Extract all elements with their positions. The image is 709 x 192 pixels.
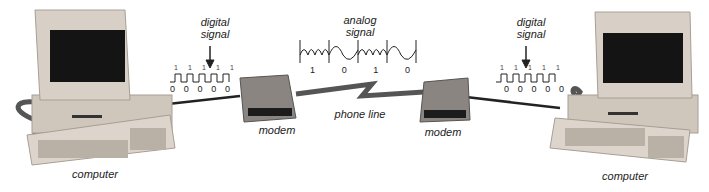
bit: 1 [373, 65, 378, 75]
bit: 0 [211, 84, 216, 94]
high-mark: 1 [174, 64, 178, 71]
right-digital-label: digital signal [506, 16, 556, 40]
left-digital-label: digital signal [190, 16, 240, 40]
bit: 0 [405, 65, 410, 75]
high-mark: 1 [500, 64, 504, 71]
bit: 1 [310, 65, 315, 75]
right-computer-label: computer [590, 170, 660, 182]
phone-line-label: phone line [325, 108, 395, 120]
bit: 0 [225, 84, 230, 94]
right-digital-label-line1: digital [506, 16, 556, 28]
analog-label: analog signal [330, 14, 390, 38]
analog-label-line2: signal [330, 26, 390, 38]
left-computer-label: computer [60, 168, 130, 180]
analog-waveform [300, 40, 416, 63]
bit: 0 [559, 84, 564, 94]
right-computer-illustration [550, 12, 698, 162]
high-mark: 1 [230, 64, 234, 71]
high-mark: 1 [514, 64, 518, 71]
high-mark: 1 [188, 64, 192, 71]
bit: 0 [197, 84, 202, 94]
left-digital-label-line2: signal [190, 28, 240, 40]
analog-bits: 1 0 1 0 [310, 65, 410, 75]
right-digital-high-marks: 1 1 1 1 1 [500, 64, 560, 71]
left-digital-high-marks: 1 1 1 1 1 [174, 64, 234, 71]
bit: 0 [170, 84, 175, 94]
bit: 0 [545, 84, 550, 94]
left-computer-illustration [27, 10, 175, 165]
bit: 0 [342, 65, 347, 75]
high-mark: 1 [216, 64, 220, 71]
high-mark: 1 [556, 64, 560, 71]
left-digital-label-line1: digital [190, 16, 240, 28]
high-mark: 1 [202, 64, 206, 71]
right-modem-illustration [420, 78, 470, 122]
bit: 0 [518, 84, 523, 94]
left-modem-label: modem [252, 124, 302, 136]
bit: 0 [184, 84, 189, 94]
high-mark: 1 [528, 64, 532, 71]
left-modem-illustration [240, 75, 296, 122]
phone-line [296, 84, 424, 96]
bit: 0 [504, 84, 509, 94]
right-digital-bits: 0 0 0 0 0 [504, 84, 564, 94]
bit: 0 [531, 84, 536, 94]
left-digital-bits: 0 0 0 0 0 [170, 84, 230, 94]
right-cable [466, 97, 560, 108]
high-mark: 1 [542, 64, 546, 71]
right-modem-label: modem [418, 126, 468, 138]
right-digital-label-line2: signal [506, 28, 556, 40]
analog-label-line1: analog [330, 14, 390, 26]
